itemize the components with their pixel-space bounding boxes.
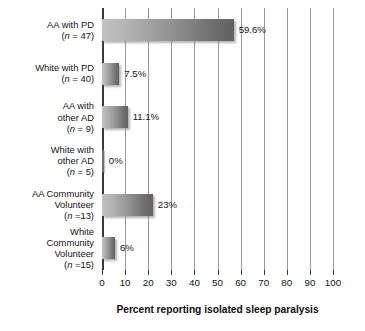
tick-mark xyxy=(310,270,311,275)
bar xyxy=(102,19,234,41)
tick-label: 30 xyxy=(166,277,177,289)
tick-mark xyxy=(102,270,103,275)
tick-label: 80 xyxy=(281,277,292,289)
tick-label: 50 xyxy=(212,277,223,289)
tick-label: 90 xyxy=(304,277,315,289)
gridline xyxy=(171,8,172,270)
bar-value-label: 6% xyxy=(120,242,134,254)
gridline xyxy=(194,8,195,270)
tick-mark xyxy=(125,270,126,275)
category-label-line: AA with PD xyxy=(0,19,94,30)
category-label-line: White with xyxy=(0,144,94,155)
tick-mark xyxy=(333,270,334,275)
category-label: White withother AD(n = 5) xyxy=(0,144,94,178)
bar-value-label: 7.5% xyxy=(124,68,146,80)
tick-label: 60 xyxy=(235,277,246,289)
bar xyxy=(102,106,128,128)
gridline xyxy=(333,8,334,270)
category-sample-size: (n =15) xyxy=(0,259,94,270)
category-label-line: Volunteer xyxy=(0,248,94,259)
category-sample-size: (n = 40) xyxy=(0,73,94,84)
gridline xyxy=(125,8,126,270)
bar-chart: AA with PD(n = 47)White with PD(n = 40)A… xyxy=(0,0,365,331)
tick-mark xyxy=(171,270,172,275)
category-label: AA withother AD(n = 9) xyxy=(0,100,94,134)
gridline xyxy=(310,8,311,270)
tick-label: 100 xyxy=(325,277,341,289)
gridline xyxy=(218,8,219,270)
tick-label: 20 xyxy=(143,277,154,289)
bar xyxy=(102,194,153,216)
category-label: WhiteCommunityVolunteer(n =15) xyxy=(0,226,94,271)
category-label: White with PD(n = 40) xyxy=(0,62,94,85)
tick-mark xyxy=(194,270,195,275)
tick-label: 0 xyxy=(99,277,104,289)
category-label-line: other AD xyxy=(0,112,94,123)
category-label-line: White with PD xyxy=(0,62,94,73)
x-axis-title: Percent reporting isolated sleep paralys… xyxy=(102,304,333,315)
tick-mark xyxy=(264,270,265,275)
gridline xyxy=(287,8,288,270)
bar xyxy=(102,237,115,259)
category-sample-size: (n =13) xyxy=(0,210,94,221)
bar-value-label: 0% xyxy=(109,155,123,167)
bar-value-label: 11.1% xyxy=(133,111,160,123)
category-label-line: AA Community xyxy=(0,188,94,199)
bar xyxy=(102,63,119,85)
category-sample-size: (n = 5) xyxy=(0,166,94,177)
category-label-line: other AD xyxy=(0,155,94,166)
category-label: AA CommunityVolunteer(n =13) xyxy=(0,188,94,222)
tick-mark xyxy=(218,270,219,275)
gridline xyxy=(241,8,242,270)
bar-value-label: 59.6% xyxy=(239,24,266,36)
category-label-line: AA with xyxy=(0,100,94,111)
category-label-line: Community xyxy=(0,237,94,248)
category-sample-size: (n = 47) xyxy=(0,30,94,41)
category-label-line: Volunteer xyxy=(0,199,94,210)
bar xyxy=(102,150,104,172)
plot-area: 59.6%7.5%11.1%0%23%6% 010203040506070809… xyxy=(102,8,333,270)
gridline xyxy=(148,8,149,270)
value-axis-line xyxy=(102,8,104,270)
category-axis-labels: AA with PD(n = 47)White with PD(n = 40)A… xyxy=(0,8,98,270)
tick-mark xyxy=(287,270,288,275)
category-sample-size: (n = 9) xyxy=(0,123,94,134)
tick-label: 10 xyxy=(120,277,131,289)
category-label: AA with PD(n = 47) xyxy=(0,19,94,42)
tick-mark xyxy=(241,270,242,275)
tick-mark xyxy=(148,270,149,275)
gridline xyxy=(264,8,265,270)
tick-label: 70 xyxy=(258,277,269,289)
category-label-line: White xyxy=(0,226,94,237)
tick-label: 40 xyxy=(189,277,200,289)
bar-value-label: 23% xyxy=(158,199,177,211)
